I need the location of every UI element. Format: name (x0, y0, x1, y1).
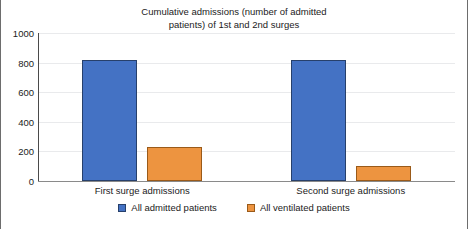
x-axis-tick-label: Second surge admissions (296, 185, 405, 196)
bar (291, 60, 346, 181)
bar (356, 166, 411, 181)
chart-title: Cumulative admissions (number of admitte… (60, 6, 408, 31)
y-axis-tick-label: 200 (2, 146, 34, 157)
y-axis-tick-label: 800 (2, 57, 34, 68)
chart-legend: All admitted patientsAll ventilated pati… (0, 202, 468, 213)
bar (147, 147, 202, 181)
legend-item[interactable]: All admitted patients (118, 202, 217, 213)
legend-swatch-icon (118, 204, 126, 212)
y-axis-tick-label: 600 (2, 87, 34, 98)
chart-figure: Cumulative admissions (number of admitte… (0, 0, 468, 229)
y-axis-tick-label: 400 (2, 116, 34, 127)
y-axis-tick-label: 1000 (2, 28, 34, 39)
x-axis-tick-label: First surge admissions (95, 185, 190, 196)
y-axis-tick-label: 0 (2, 176, 34, 187)
legend-label: All ventilated patients (260, 202, 350, 213)
legend-label: All admitted patients (131, 202, 217, 213)
gridline (38, 33, 455, 34)
legend-item[interactable]: All ventilated patients (247, 202, 350, 213)
plot-area: 02004006008001000 First surge admissions… (38, 33, 455, 182)
legend-swatch-icon (247, 204, 255, 212)
y-axis-line (38, 33, 39, 182)
bar (82, 60, 137, 181)
x-axis-line (38, 181, 455, 182)
